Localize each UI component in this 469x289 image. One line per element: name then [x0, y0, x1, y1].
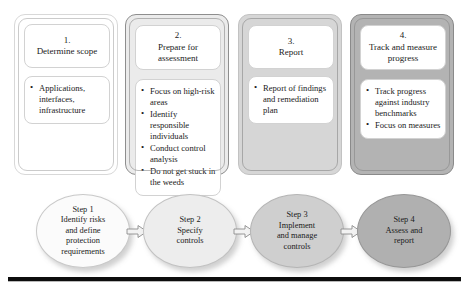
flow-step-1-text: Step 1 Identify risks and define protect…	[61, 205, 105, 258]
flow-step-2: Step 2 Specify controls	[143, 194, 237, 268]
stage-2-body: Focus on high-risk areas Identify respon…	[135, 79, 221, 196]
stage-3-body: Report of findings and remediation plan	[248, 76, 334, 124]
stage-2-header: 2. Prepare for assessment	[135, 25, 221, 70]
flow-step-1-line: protection	[61, 236, 105, 247]
process-flow-row: Step 1 Identify risks and define protect…	[0, 188, 469, 276]
stage-1-title: Determine scope	[37, 46, 98, 58]
flow-step-3-line: Implement	[277, 221, 317, 232]
flow-step-1-line: Identify risks	[61, 215, 105, 226]
flow-step-1-line: and define	[61, 226, 105, 237]
flow-step-4-line: Step 4	[386, 215, 423, 226]
flow-step-4-line: report	[386, 236, 423, 247]
flow-step-2-text: Step 2 Specify controls	[177, 215, 204, 247]
flow-step-3: Step 3 Implement and manage controls	[250, 194, 344, 268]
bottom-divider-rule	[8, 277, 461, 281]
stage-4-body: Track progress against industry benchmar…	[360, 79, 446, 139]
stage-1-number: 1.	[64, 35, 71, 47]
stage-3-bullet-list: Report of findings and remediation plan	[253, 83, 329, 116]
stage-1-header: 1. Determine scope	[24, 24, 110, 68]
stage-4-header: 4. Track and measure progress	[360, 25, 446, 70]
stage-3-title: Report	[279, 47, 304, 59]
flow-step-1: Step 1 Identify risks and define protect…	[36, 194, 130, 268]
flow-step-4-text: Step 4 Assess and report	[386, 215, 423, 247]
stage-4-title: Track and measure progress	[364, 42, 442, 65]
stage-3-bullet: Report of findings and remediation plan	[262, 83, 329, 116]
flow-step-4: Step 4 Assess and report	[357, 194, 451, 268]
flow-step-2-line: controls	[177, 236, 204, 247]
stage-4-bullet-list: Track progress against industry benchmar…	[365, 86, 441, 131]
flow-step-3-line: controls	[277, 242, 317, 253]
stage-4-bullet: Focus on measures	[374, 120, 441, 131]
stage-4-number: 4.	[400, 30, 407, 42]
flow-step-2-line: Specify	[177, 226, 204, 237]
stage-2-bullet: Identify responsible individuals	[149, 109, 216, 142]
flow-step-3-text: Step 3 Implement and manage controls	[277, 210, 317, 252]
stage-panel-2: 2. Prepare for assessment Focus on high-…	[125, 14, 229, 175]
stage-2-bullet: Do not get stuck in the weeds	[149, 166, 216, 188]
flow-step-3-line: and manage	[277, 231, 317, 242]
stage-2-bullet: Focus on high-risk areas	[149, 86, 216, 108]
stage-2-title: Prepare for assessment	[139, 42, 217, 65]
stage-panel-4: 4. Track and measure progress Track prog…	[350, 14, 454, 175]
stage-1-bullet-list: Applications, interfaces, infrastructure	[29, 83, 105, 116]
stage-2-bullet: Conduct control analysis	[149, 143, 216, 165]
stage-3-header: 3. Report	[248, 25, 334, 69]
stage-3-number: 3.	[288, 36, 295, 48]
stage-1-bullet: Applications, interfaces, infrastructure	[38, 83, 105, 116]
stage-panel-3: 3. Report Report of findings and remedia…	[238, 14, 342, 175]
stage-panel-1: 1. Determine scope Applications, interfa…	[14, 14, 118, 175]
stage-1-body: Applications, interfaces, infrastructure	[24, 76, 110, 124]
flow-step-2-line: Step 2	[177, 215, 204, 226]
flow-step-3-line: Step 3	[277, 210, 317, 221]
stage-2-number: 2.	[175, 30, 182, 42]
assessment-stage-row: 1. Determine scope Applications, interfa…	[0, 0, 469, 180]
stage-2-bullet-list: Focus on high-risk areas Identify respon…	[140, 86, 216, 188]
flow-step-4-line: Assess and	[386, 226, 423, 237]
flow-step-1-line: requirements	[61, 247, 105, 258]
flow-step-1-line: Step 1	[61, 205, 105, 216]
stage-4-bullet: Track progress against industry benchmar…	[374, 86, 441, 119]
